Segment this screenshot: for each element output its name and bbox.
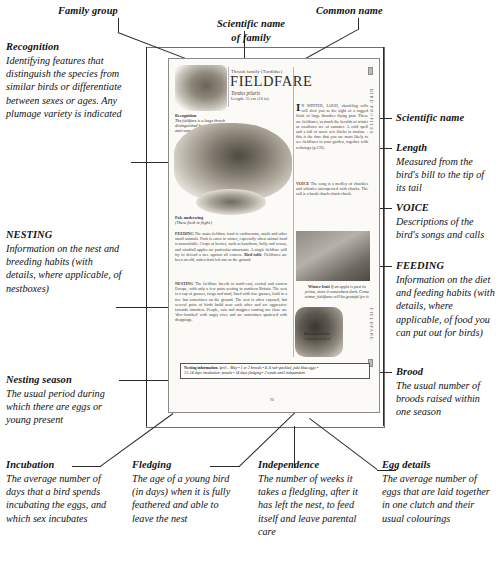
caption-pale-underwing-body: (These flash in flight.) [175, 220, 212, 225]
nesting-information-line2: 13–14 days incubation: female • 14 days … [184, 371, 305, 375]
leader-common-name-vertical [358, 18, 359, 30]
nesting-information-line1: April – May • 1 or 2 broods • 4–6 red-sp… [218, 366, 318, 370]
callout-recognition: Recognition Identifying features that di… [6, 40, 126, 120]
callout-voice-heading: VOICE [396, 201, 496, 215]
callout-voice: VOICE Descriptions of the bird's songs a… [396, 201, 496, 241]
callout-egg-details: Egg details The average number of eggs t… [382, 458, 494, 525]
callout-voice-body: Descriptions of the bird's songs and cal… [396, 215, 496, 241]
leader-family-group-vertical [118, 18, 119, 32]
leader-rail-right [383, 47, 384, 426]
caption-rowan-berries-body: A fieldfare food. [304, 336, 331, 341]
bird-profile-page: BIRD PROFILES FIELDFARE Thrush family (T… [168, 58, 380, 413]
callout-brood: Brood The usual number of broods raised … [396, 365, 496, 419]
callout-egg-details-heading: Egg details [382, 458, 494, 472]
tab-marker-top [368, 67, 373, 75]
page-intro-body: N WINTER, LOUD, chuckling calls will ale… [296, 103, 368, 150]
illustration-fieldfare-flight [196, 189, 266, 215]
callout-incubation-heading: Incubation [6, 458, 118, 472]
page-common-name: FIELDFARE [230, 74, 312, 89]
callout-brood-heading: Brood [396, 365, 496, 379]
callout-fledging-body: The age of a young bird (in days) when i… [132, 472, 240, 525]
page-voice-block: VOICE The song is a medley of chuckles a… [296, 181, 368, 197]
callout-nesting-season-heading: Nesting season [6, 373, 124, 387]
callout-incubation-body: The average number of days that a bird s… [6, 472, 118, 525]
photo-winter-fruit [296, 231, 370, 281]
callout-family-group-label: Family group [58, 4, 178, 18]
callout-independence-heading: Independence [258, 458, 372, 472]
callout-scientific-name-of-family-label: Scientific name of family [196, 17, 306, 45]
page-intro-text: IN WINTER, LOUD, chuckling calls will al… [296, 103, 368, 150]
callout-egg-details-body: The average number of eggs that are laid… [382, 472, 494, 525]
page-length-line: Length: 25 cm (10 in) [231, 96, 269, 101]
page-feeding-block: FEEDING The main fieldfare food is earth… [175, 231, 287, 262]
callout-length-body: Measured from the bird's bill to the tip… [396, 155, 496, 195]
callout-scientific-name: Scientific name [396, 111, 496, 125]
column-rule-mid [293, 67, 294, 357]
page-inner: BIRD PROFILES FIELDFARE Thrush family (T… [174, 63, 376, 410]
callout-recognition-heading: Recognition [6, 40, 126, 54]
callout-scientific-name-heading: Scientific name [396, 111, 496, 125]
callout-recognition-body: Identifying features that distinguish th… [6, 54, 126, 120]
callout-feeding: FEEDING Information on the diet and feed… [396, 259, 498, 339]
callout-independence: Independence The number of weeks it take… [258, 458, 372, 538]
callout-family-group: Family group [58, 4, 178, 18]
callout-feeding-heading: FEEDING [396, 259, 498, 273]
callout-length: Length Measured from the bird's bill to … [396, 141, 496, 195]
page-folio-number: 90 [270, 397, 274, 402]
callout-nesting-heading: NESTING [6, 228, 124, 242]
callout-feeding-body: Information on the diet and feeding habi… [396, 273, 498, 339]
callout-nesting-body: Information on the nest and breeding hab… [6, 242, 124, 295]
callout-independence-body: The number of weeks it takes a fledgling… [258, 472, 372, 538]
callout-fledging-heading: Fledging [132, 458, 240, 472]
column-rule-left [228, 67, 229, 107]
page-nesting-block: NESTING The fieldfare breeds in north-ea… [175, 281, 287, 323]
illustration-perched-fieldfare [175, 65, 227, 111]
tab-label-fieldfare: FIELDFARE [365, 293, 374, 355]
callout-nesting-season: Nesting season The usual period during w… [6, 373, 124, 427]
leader-rail-left [146, 47, 147, 426]
page-nesting-text: The fieldfare breeds in north-east, cent… [175, 281, 287, 322]
callout-fledging: Fledging The age of a young bird (in day… [132, 458, 240, 525]
callout-common-name-label: Common name [316, 4, 426, 18]
caption-pale-underwing: Pale underwing (These flash in flight.) [175, 215, 255, 225]
caption-rowan-berries: Rowan berries A fieldfare food. [304, 331, 368, 341]
caption-winter-fruit: Winter fruit If an apple is past its pri… [304, 284, 370, 299]
callout-incubation: Incubation The average number of days th… [6, 458, 118, 525]
callout-scientific-name-of-family: Scientific name of family [196, 4, 306, 58]
callout-nesting-season-body: The usual period during which there are … [6, 387, 124, 427]
callout-brood-body: The usual number of broods raised within… [396, 379, 496, 419]
nesting-information-label: Nesting information [184, 366, 217, 370]
callout-nesting: NESTING Information on the nest and bree… [6, 228, 124, 295]
callout-length-heading: Length [396, 141, 496, 155]
nesting-information-box: Nesting information April – May • 1 or 2… [180, 363, 370, 379]
callout-common-name: Common name [316, 4, 426, 18]
